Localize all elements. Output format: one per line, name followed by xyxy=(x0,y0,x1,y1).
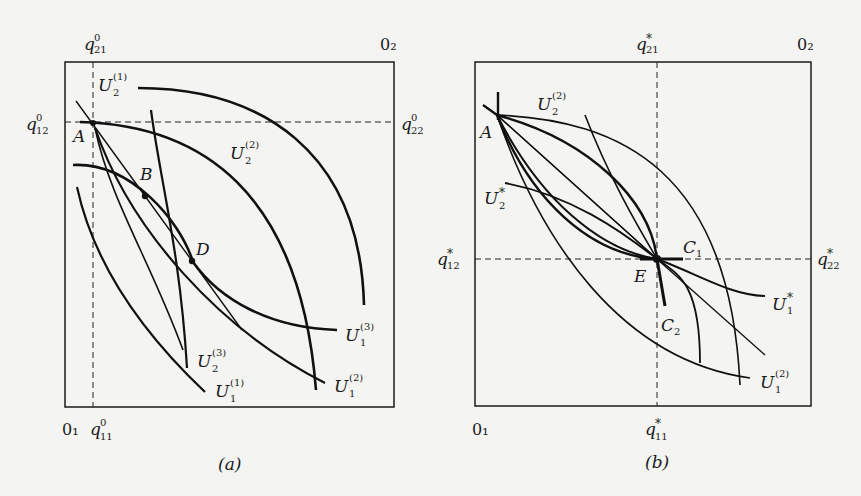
svg-text:1: 1 xyxy=(775,384,781,395)
curve-u1-star xyxy=(497,115,765,296)
origin-2-label-a: 0₂ xyxy=(380,35,397,54)
point-a-marker xyxy=(90,120,96,126)
svg-text:U: U xyxy=(537,94,552,114)
svg-text:2: 2 xyxy=(552,106,558,117)
label-c2-b: C 2 xyxy=(661,315,680,337)
point-b-label: B xyxy=(139,164,153,184)
origin-1-label-b: 0₁ xyxy=(472,420,489,439)
svg-text:(2): (2) xyxy=(552,90,566,101)
svg-text:22: 22 xyxy=(411,125,424,136)
svg-text:*: * xyxy=(655,417,661,431)
curve-u1-2 xyxy=(95,128,325,383)
label-q22-b: q * 22 xyxy=(817,247,840,271)
svg-text:U: U xyxy=(98,75,113,95)
label-u2-2-b: U (2) 2 xyxy=(537,90,566,117)
svg-text:1: 1 xyxy=(349,388,355,399)
panel-b: A E q * 21 0₂ q * 12 q * 22 0₁ q * 11 U … xyxy=(437,32,840,472)
label-u1-3-a: U (3) 1 xyxy=(345,321,374,348)
edgeworth-box-a xyxy=(65,62,394,407)
svg-text:0: 0 xyxy=(36,112,42,123)
svg-text:2: 2 xyxy=(674,326,680,337)
point-d-label: D xyxy=(195,239,210,259)
svg-text:C: C xyxy=(683,237,696,257)
svg-text:21: 21 xyxy=(646,44,659,55)
svg-text:21: 21 xyxy=(94,44,107,55)
label-u2-star-b: U * 2 xyxy=(484,186,505,211)
label-q21-b: q * 21 xyxy=(636,32,659,55)
svg-text:1: 1 xyxy=(230,393,236,404)
svg-text:(3): (3) xyxy=(360,321,374,332)
point-e-label: E xyxy=(633,266,647,286)
svg-text:(2): (2) xyxy=(775,368,789,379)
origin-1-label-a: 0₁ xyxy=(62,420,79,439)
svg-text:*: * xyxy=(447,247,453,261)
label-u1-1-a: U (1) 1 xyxy=(215,377,244,404)
caption-a: (a) xyxy=(218,454,241,474)
point-b-marker xyxy=(142,193,148,199)
label-u1-2-b: U (2) 1 xyxy=(760,368,789,395)
svg-text:*: * xyxy=(499,186,505,200)
panel-a: A B D q 0 21 0₂ q 0 12 q 0 22 0₁ q 0 11 … xyxy=(26,32,424,474)
svg-text:22: 22 xyxy=(827,260,840,271)
svg-text:1: 1 xyxy=(787,305,793,316)
svg-text:(2): (2) xyxy=(245,139,259,150)
svg-text:1: 1 xyxy=(696,248,702,259)
svg-text:11: 11 xyxy=(100,431,113,442)
svg-text:0: 0 xyxy=(411,112,417,123)
svg-text:U: U xyxy=(772,294,787,314)
svg-text:(3): (3) xyxy=(212,347,226,358)
label-u2-1-a: U (1) 2 xyxy=(98,71,127,98)
label-q11-b: q * 11 xyxy=(645,417,668,442)
label-q11-a: q 0 11 xyxy=(90,417,113,442)
svg-text:U: U xyxy=(215,381,230,401)
svg-text:(1): (1) xyxy=(113,71,127,82)
svg-text:U: U xyxy=(484,188,499,208)
label-q22-a: q 0 22 xyxy=(401,112,424,136)
edgeworth-box-figure: A B D q 0 21 0₂ q 0 12 q 0 22 0₁ q 0 11 … xyxy=(0,0,861,496)
svg-text:2: 2 xyxy=(113,87,119,98)
label-u1-2-a: U (2) 1 xyxy=(334,372,363,399)
label-u1-star-b: U * 1 xyxy=(772,291,793,316)
svg-text:0: 0 xyxy=(94,32,100,43)
svg-text:2: 2 xyxy=(245,155,251,166)
svg-text:2: 2 xyxy=(212,363,218,374)
svg-text:12: 12 xyxy=(447,260,460,271)
point-a-label-b: A xyxy=(478,122,492,142)
svg-text:2: 2 xyxy=(499,200,505,211)
label-q21-a: q 0 21 xyxy=(84,32,107,55)
point-e-marker xyxy=(653,255,661,263)
svg-text:U: U xyxy=(197,351,212,371)
point-a-label: A xyxy=(71,126,85,146)
svg-text:U: U xyxy=(334,376,349,396)
point-a-cross-b xyxy=(483,92,498,120)
svg-text:U: U xyxy=(760,372,775,392)
label-q12-a: q 0 12 xyxy=(26,112,49,136)
caption-b: (b) xyxy=(645,452,669,472)
svg-text:*: * xyxy=(787,291,793,305)
label-c1-b: C 1 xyxy=(683,237,702,259)
origin-2-label-b: 0₂ xyxy=(797,35,814,54)
label-q12-b: q * 12 xyxy=(437,247,460,271)
label-u2-2-a: U (2) 2 xyxy=(230,139,259,166)
svg-text:(1): (1) xyxy=(230,377,244,388)
svg-text:(2): (2) xyxy=(349,372,363,383)
label-u2-3-a: U (3) 2 xyxy=(197,347,226,374)
svg-text:U: U xyxy=(230,143,245,163)
segment-c2 xyxy=(657,259,665,306)
svg-text:11: 11 xyxy=(655,431,668,442)
svg-text:0: 0 xyxy=(100,417,106,428)
svg-text:C: C xyxy=(661,315,674,335)
svg-text:U: U xyxy=(345,325,360,345)
point-d-marker xyxy=(189,258,195,264)
svg-text:1: 1 xyxy=(360,337,366,348)
svg-text:*: * xyxy=(827,247,833,261)
svg-text:12: 12 xyxy=(36,125,49,136)
